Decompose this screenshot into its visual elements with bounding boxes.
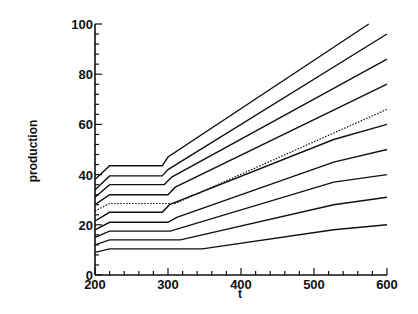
line-chart: 200300400500600020406080100 t production (0, 0, 418, 314)
series-line-10 (95, 225, 387, 253)
y-tick-label: 0 (86, 268, 93, 283)
x-tick-label: 600 (376, 277, 398, 292)
y-tick-label: 60 (79, 117, 93, 132)
x-tick-label: 300 (157, 277, 179, 292)
x-axis-label: t (238, 287, 242, 301)
series-line-4 (95, 84, 387, 205)
y-tick-label: 80 (79, 67, 93, 82)
y-tick-label: 40 (79, 168, 93, 183)
series-line-9 (95, 197, 387, 245)
series-line-7 (95, 150, 387, 230)
x-tick-label: 500 (303, 277, 325, 292)
series-layer (95, 24, 387, 252)
series-line-1 (95, 24, 369, 180)
y-tick-label: 20 (79, 218, 93, 233)
y-tick-label: 100 (71, 17, 93, 32)
y-axis-label: production (26, 120, 40, 183)
